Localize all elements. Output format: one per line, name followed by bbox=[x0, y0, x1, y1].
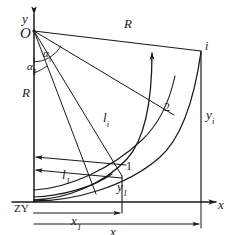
arc-length-l1-label: l1 bbox=[62, 168, 70, 184]
abscissa-xi-label: xi bbox=[110, 225, 118, 235]
abscissa-x1-sub: 1 bbox=[77, 222, 81, 232]
ordinate-y1-symbol: y bbox=[117, 179, 123, 194]
angle-alpha-i-label: αi bbox=[43, 48, 51, 62]
radial-ray-2 bbox=[34, 31, 174, 115]
diagram-canvas bbox=[0, 0, 232, 235]
angle-alpha-1-sub: 1 bbox=[33, 68, 37, 77]
vertex-O-marker bbox=[32, 29, 35, 32]
radius-chord-label: R bbox=[124, 17, 132, 30]
abscissa-xi-symbol: x bbox=[110, 224, 116, 235]
abscissa-xi-sub: i bbox=[116, 233, 118, 235]
angle-alpha-1-symbol: α bbox=[27, 60, 33, 72]
arc-point-2 bbox=[34, 76, 175, 190]
transition-curve-inner bbox=[34, 53, 152, 200]
transition-curve-diagram: y x O R R αi α1 li l1 1 2 i y1 yi x1 xi … bbox=[0, 0, 232, 235]
abscissa-x1-label: x1 bbox=[71, 214, 81, 230]
arc-length-l1-sub: 1 bbox=[66, 176, 70, 186]
angle-alpha-1-label: α1 bbox=[27, 61, 37, 75]
point-1-label: 1 bbox=[126, 160, 132, 172]
station-zy-label: ZY bbox=[14, 203, 29, 214]
ordinate-yi-label: yi bbox=[206, 108, 214, 124]
ordinate-y1-sub: 1 bbox=[123, 188, 127, 198]
arc-point-1 bbox=[34, 174, 112, 197]
origin-label: O bbox=[20, 26, 31, 41]
abscissa-x1-symbol: x bbox=[71, 213, 77, 228]
angle-alpha-i-sub: i bbox=[49, 55, 51, 64]
arc-length-li-label: li bbox=[103, 111, 109, 127]
ordinate-y1-label: y1 bbox=[117, 180, 127, 196]
point-i-label: i bbox=[205, 40, 208, 52]
radius-chord-top bbox=[34, 31, 201, 51]
y-axis-label: y bbox=[22, 12, 28, 25]
ordinate-yi-symbol: y bbox=[206, 107, 212, 122]
arc-length-li-sub: i bbox=[107, 119, 109, 129]
angle-alpha-i-symbol: α bbox=[43, 47, 49, 59]
radius-vertical-label: R bbox=[22, 86, 30, 99]
x-axis-label: x bbox=[218, 198, 224, 211]
point-2-label: 2 bbox=[164, 101, 170, 113]
